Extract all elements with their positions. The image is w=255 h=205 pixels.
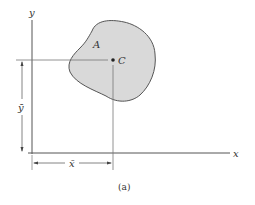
ybar-arrow-top bbox=[21, 61, 24, 66]
area-label: A bbox=[92, 39, 100, 50]
ybar-arrow-bottom bbox=[21, 147, 24, 152]
x-axis-label: x bbox=[233, 148, 239, 159]
xbar-arrow-right bbox=[107, 162, 112, 165]
centroid-diagram: y x A C ȳ x̄ (a) bbox=[0, 0, 255, 205]
y-axis-label: y bbox=[28, 7, 35, 18]
xbar-arrow-left bbox=[33, 162, 38, 165]
centroid-point bbox=[111, 58, 115, 62]
xbar-label: x̄ bbox=[69, 158, 75, 169]
centroid-label: C bbox=[118, 55, 126, 66]
figure-caption: (a) bbox=[118, 182, 130, 192]
ybar-label: ȳ bbox=[17, 102, 24, 113]
